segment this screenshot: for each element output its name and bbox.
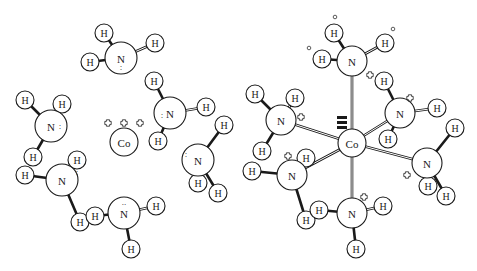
hydrogen-atom-label: H: [58, 99, 65, 110]
ammine-ligand: HHHN: [307, 15, 395, 78]
positive-charge-icon: [404, 172, 410, 178]
left-panel-free-ammonia: HHHN:HHHN:HHHN:HHHN:HHHN:HHHN..Co: [16, 24, 233, 258]
right-panel-hexaammine-complex: HHHNHHHNHHHNHHHNHHHNHHHNCo: [243, 15, 464, 258]
hydrogen-atom-label: H: [86, 57, 93, 68]
nitrogen-atom: N: [385, 98, 415, 128]
hydrogen-atom: H: [246, 85, 264, 103]
lone-pair: :: [161, 110, 164, 120]
hydrogen-atom-label: H: [251, 89, 258, 100]
ammonia-molecule: HHHN:: [16, 91, 71, 166]
nitrogen-atom: N: [277, 160, 307, 190]
nitrogen-atom: N: [412, 148, 442, 178]
lone-pair: :: [185, 149, 188, 159]
cobalt-ion: Co: [110, 128, 138, 156]
nitrogen-atom-label: N: [120, 208, 128, 220]
hydrogen-atom-label: H: [451, 123, 458, 134]
nitrogen-atom: N: [154, 97, 186, 129]
ammine-ligand: HHHN: [246, 85, 304, 160]
positive-charge-icon: [105, 120, 111, 126]
hydrogen-atom: H: [122, 240, 140, 258]
hydrogen-atom: H: [16, 91, 34, 109]
positive-charge-icon: [361, 194, 367, 200]
hydrogen-atom: H: [95, 24, 113, 42]
ammine-ligand: HHHN: [375, 72, 446, 148]
nitrogen-atom-label: N: [277, 115, 285, 127]
hydrogen-atom: H: [243, 162, 261, 180]
hydrogen-atom-label: H: [100, 28, 107, 39]
hydrogen-atom: H: [437, 187, 455, 205]
hydrogen-atom: H: [325, 24, 343, 42]
positive-charge-icon: [121, 120, 127, 126]
lone-pair: :: [120, 62, 123, 72]
hydrogen-atom: H: [376, 34, 394, 52]
partial-charge-dot: [333, 15, 337, 19]
hydrogen-atom-label: H: [258, 146, 265, 157]
hydrogen-atom: H: [428, 99, 446, 117]
hydrogen-atom-label: H: [220, 120, 227, 131]
cobalt-ion-label: Co: [118, 137, 131, 149]
hydrogen-atom-label: H: [318, 54, 325, 65]
hydrogen-atom-label: H: [73, 155, 80, 166]
nitrogen-atom-label: N: [58, 175, 66, 187]
hydrogen-atom: H: [81, 53, 99, 71]
hydrogen-atom-label: H: [248, 166, 255, 177]
hydrogen-atom: H: [446, 119, 464, 137]
hydrogen-atom: H: [347, 240, 365, 258]
ammonia-molecule: HHHN:: [81, 24, 164, 74]
hydrogen-atom-label: H: [302, 215, 309, 226]
lone-pair: :: [59, 121, 62, 131]
cobalt-ammine-diagram: HHHN:HHHN:HHHN:HHHN:HHHN:HHHN..Co HHHNHH…: [0, 0, 477, 271]
hydrogen-atom-label: H: [302, 153, 309, 164]
nitrogen-atom-label: N: [396, 108, 404, 120]
hydrogen-atom-label: H: [384, 134, 391, 145]
hydrogen-atom: H: [149, 132, 167, 150]
hydrogen-atom-label: H: [29, 152, 36, 163]
positive-charge-icon: [298, 114, 304, 120]
nitrogen-atom-label: N: [348, 56, 356, 68]
nitrogen-atom: N: [266, 105, 296, 135]
lone-pair: :: [76, 167, 79, 177]
ammonia-molecule: HHHN..: [86, 197, 165, 258]
hydrogen-atom: H: [209, 184, 227, 202]
hydrogen-atom-label: H: [352, 244, 359, 255]
nitrogen-atom-label: N: [423, 158, 431, 170]
nitrogen-atom: N: [46, 164, 78, 196]
ammine-ligand: HHHN: [404, 119, 464, 205]
hydrogen-atom-label: H: [151, 38, 158, 49]
hydrogen-atom-label: H: [315, 205, 322, 216]
hydrogen-atom-label: H: [424, 181, 431, 192]
hydrogen-atom: H: [197, 98, 215, 116]
hydrogen-atom: H: [375, 72, 393, 90]
hydrogen-atom-label: H: [154, 136, 161, 147]
hydrogen-atom-label: H: [152, 201, 159, 212]
hydrogen-atom-label: H: [91, 211, 98, 222]
ammonia-molecule: HHHN:: [182, 116, 233, 202]
positive-charge-icon: [367, 72, 373, 78]
positive-charge-icon: [137, 120, 143, 126]
ammonia-molecule: HHHN:: [145, 72, 215, 150]
hydrogen-atom: H: [310, 201, 328, 219]
hydrogen-atom: H: [147, 197, 165, 215]
hydrogen-atom: H: [419, 177, 437, 195]
nitrogen-atom-label: N: [166, 108, 174, 120]
hydrogen-atom: H: [253, 142, 271, 160]
ammine-ligand: HHHN: [310, 194, 392, 258]
hydrogen-atom-label: H: [21, 170, 28, 181]
triple-bar-marker: [337, 116, 347, 129]
hydrogen-atom: H: [145, 72, 163, 90]
nitrogen-atom-label: N: [194, 155, 202, 167]
cobalt-center: Co: [338, 129, 366, 157]
partial-charge-dot: [391, 27, 395, 31]
hydrogen-atom-label: H: [202, 102, 209, 113]
hydrogen-atom-label: H: [194, 178, 201, 189]
hydrogen-atom-label: H: [381, 38, 388, 49]
hydrogen-atom-label: H: [433, 103, 440, 114]
hydrogen-atom: H: [24, 148, 42, 166]
hydrogen-atom-label: H: [330, 28, 337, 39]
hydrogen-atom: H: [374, 197, 392, 215]
positive-charge-icon: [285, 153, 291, 159]
hydrogen-atom-label: H: [21, 95, 28, 106]
hydrogen-atom: H: [86, 207, 104, 225]
lone-pair: ..: [122, 197, 127, 207]
hydrogen-atom: H: [16, 166, 34, 184]
